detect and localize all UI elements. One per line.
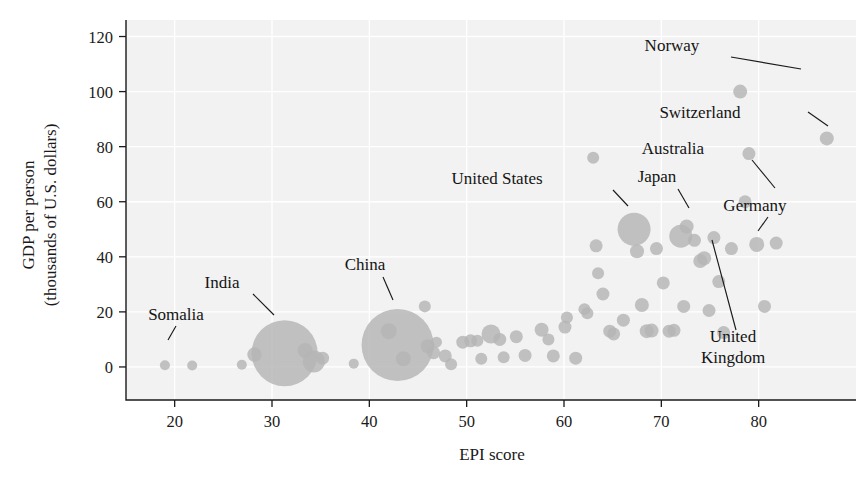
y-axis-title-line1: GDP per person <box>19 160 38 269</box>
bubble-point <box>493 333 506 346</box>
y-tick-label: 120 <box>88 28 113 47</box>
annotation-label-switzerland: Switzerland <box>659 103 741 122</box>
bubble-point <box>519 349 532 362</box>
bubble-point <box>427 346 440 359</box>
bubble-point <box>650 242 663 255</box>
bubble-point <box>758 300 771 313</box>
annotation-label-china: China <box>345 255 386 274</box>
bubble-switzerland <box>820 131 834 145</box>
bubble-point <box>419 300 431 312</box>
annotation-label-united-kingdom: United <box>710 327 757 346</box>
bubble-point <box>349 359 359 369</box>
y-tick-labels: 020406080100120 <box>88 28 113 377</box>
bubble-point <box>590 239 603 252</box>
bubble-point <box>187 361 197 371</box>
bubble-point <box>581 307 593 319</box>
annotation-label-somalia: Somalia <box>148 305 204 324</box>
bubble-point <box>607 327 620 340</box>
bubble-point <box>657 276 670 289</box>
x-tick-label: 50 <box>458 412 475 431</box>
bubble-point <box>498 351 510 363</box>
bubble-point <box>592 267 604 279</box>
bubble-germany <box>749 237 764 252</box>
annotation-label-germany: Germany <box>723 196 787 215</box>
bubble-point <box>707 231 720 244</box>
y-tick-label: 60 <box>97 193 114 212</box>
bubble-point <box>725 242 738 255</box>
bubble-point <box>703 304 716 317</box>
bubble-united-kingdom <box>697 251 711 265</box>
x-tick-label: 30 <box>264 412 281 431</box>
y-axis-title-line2: (thousands of U.S. dollars) <box>41 124 60 307</box>
annotation-label-united-states: United States <box>451 169 542 188</box>
bubble-point <box>596 287 609 300</box>
annotation-label-india: India <box>205 273 240 292</box>
bubble-point <box>510 330 523 343</box>
x-tick-label: 40 <box>361 412 378 431</box>
annotation-label-united-kingdom: Kingdom <box>701 348 765 367</box>
bubble-point <box>237 360 247 370</box>
bubble-point <box>617 314 630 327</box>
bubble-point <box>445 358 457 370</box>
bubble-point <box>542 333 554 345</box>
annotation-label-australia: Australia <box>642 139 705 158</box>
annotation-label-japan: Japan <box>638 167 677 186</box>
x-axis-title: EPI score <box>459 445 525 464</box>
y-tick-label: 100 <box>88 83 113 102</box>
y-tick-label: 0 <box>105 358 113 377</box>
y-tick-label: 40 <box>97 248 114 267</box>
bubble-point <box>381 323 397 339</box>
x-tick-label: 70 <box>653 412 670 431</box>
bubble-point <box>396 351 411 366</box>
annotation-label-norway: Norway <box>645 36 700 55</box>
bubble-point <box>635 298 649 312</box>
bubble-somalia <box>160 360 170 370</box>
x-tick-labels: 20304050607080 <box>166 412 767 431</box>
bubble-point <box>677 300 690 313</box>
y-tick-label: 80 <box>97 138 114 157</box>
bubble-point <box>471 335 483 347</box>
x-tick-label: 20 <box>166 412 183 431</box>
bubble-point <box>569 352 582 365</box>
bubble-point <box>742 147 755 160</box>
bubble-point <box>475 353 487 365</box>
bubble-point <box>688 234 701 247</box>
bubble-point <box>645 324 659 338</box>
bubble-point <box>770 237 783 250</box>
x-tick-label: 60 <box>556 412 573 431</box>
bubble-point <box>587 152 599 164</box>
bubble-point <box>547 349 560 362</box>
bubble-point <box>630 244 644 258</box>
bubble-point <box>431 337 442 348</box>
bubble-point <box>667 324 680 337</box>
x-tick-label: 80 <box>750 412 767 431</box>
bubble-point <box>558 321 571 334</box>
bubble-united-states <box>618 213 651 246</box>
chart-canvas: 20304050607080 020406080100120 SomaliaIn… <box>0 0 864 479</box>
bubble-chart-figure: 20304050607080 020406080100120 SomaliaIn… <box>0 0 864 479</box>
bubble-norway <box>733 85 747 99</box>
y-tick-label: 20 <box>97 303 114 322</box>
bubble-point <box>316 352 329 365</box>
bubble-point <box>680 220 694 234</box>
